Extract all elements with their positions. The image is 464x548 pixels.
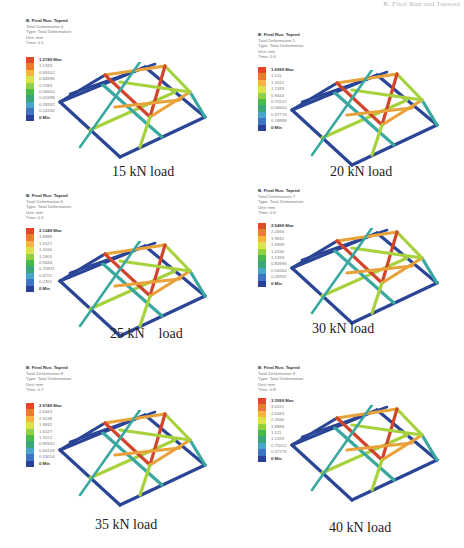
result-info: B: Final Run. Tapred Total Deformation 9…	[258, 365, 303, 393]
frame-model-render	[282, 405, 442, 505]
load-caption: 15 kN load	[112, 164, 174, 180]
analysis-title: B: Final Run. Tapred	[26, 365, 71, 371]
result-time: Time: 0.8	[258, 387, 303, 393]
frame-member	[60, 254, 105, 281]
legend-swatch	[26, 115, 34, 121]
result-type: Type: Total Deformation	[258, 199, 303, 205]
deformation-panel-6: B: Final Run. Tapred Total Deformation 9…	[232, 365, 464, 548]
deformation-panel-3: B: Final Run. Tapred Total Deformation 6…	[0, 183, 232, 366]
result-time: Time: 0.4	[258, 54, 303, 60]
frame-member	[352, 425, 422, 435]
result-type: Type: Total Deformation	[258, 43, 303, 49]
load-caption: 20 kN load	[330, 164, 392, 180]
result-type: Type: Total Deformation	[26, 29, 71, 35]
result-time: Time: 0.5	[26, 215, 71, 221]
frame-member	[120, 430, 190, 440]
frame-member	[120, 82, 190, 92]
legend-value: 0 Min	[39, 115, 50, 121]
deformation-panel-2: B: Final Run. Tapred Total Deformation 5…	[232, 0, 464, 183]
analysis-title: B: Final Run. Tapred	[258, 365, 303, 371]
load-caption: 40 kN load	[329, 520, 391, 536]
frame-model-render	[282, 70, 442, 170]
deformation-panel-4: B: Final Run. Tapred Total Deformation 7…	[232, 183, 464, 366]
analysis-title: B: Final Run. Tapred	[258, 188, 303, 194]
result-type: Type: Total Deformation	[258, 376, 303, 382]
frame-member	[352, 90, 422, 100]
load-caption: 25 kN load	[110, 326, 183, 342]
result-time: Time: 0.5	[26, 40, 71, 46]
frame-member	[352, 248, 422, 258]
frame-member	[292, 83, 337, 110]
load-caption: 30 kN load	[312, 321, 374, 337]
result-info: B: Final Run. Tapred Total Deformation 6…	[26, 193, 71, 221]
legend-swatch	[26, 461, 34, 467]
result-info: B: Final Run. Tapred Total Deformation 5…	[258, 32, 303, 60]
legend-swatch	[258, 281, 266, 287]
frame-member	[60, 75, 105, 102]
frame-model-render	[282, 228, 442, 328]
legend-value: 0 Min	[39, 286, 50, 292]
legend-swatch	[258, 456, 266, 462]
legend-value: 0 Min	[271, 456, 282, 462]
result-time: Time: 0.6	[258, 210, 303, 216]
legend-value: 0 Min	[271, 125, 282, 131]
deformation-panel-5: B: Final Run. Tapred Total Deformation 8…	[0, 365, 232, 548]
legend-value: 0 Min	[271, 281, 282, 287]
frame-member	[292, 241, 337, 268]
deformation-panel-1: B: Final Run. Tapred Total Deformation 4…	[0, 0, 232, 183]
legend-value: 0 Min	[39, 461, 50, 467]
result-type: Type: Total Deformation	[26, 376, 71, 382]
legend-swatch	[258, 125, 266, 131]
frame-member	[120, 261, 190, 271]
load-caption: 35 kN load	[95, 517, 157, 533]
frame-model-render	[50, 410, 210, 510]
analysis-title: B: Final Run. Tapred	[26, 193, 71, 199]
result-info: B: Final Run. Tapred Total Deformation 8…	[26, 365, 71, 393]
frame-member	[292, 418, 337, 445]
frame-model-render	[50, 62, 210, 162]
result-time: Time: 0.7	[26, 387, 71, 393]
analysis-title: B: Final Run. Tapred	[26, 18, 71, 24]
legend-swatch	[26, 286, 34, 292]
result-info: B: Final Run. Tapred Total Deformation 4…	[26, 18, 71, 46]
frame-member	[60, 423, 105, 450]
analysis-title: B: Final Run. Tapred	[258, 32, 303, 38]
result-info: B: Final Run. Tapred Total Deformation 7…	[258, 188, 303, 216]
result-type: Type: Total Deformation	[26, 204, 71, 210]
